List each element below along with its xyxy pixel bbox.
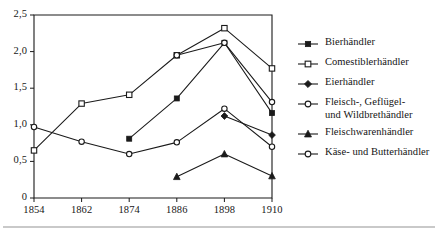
open-circle-marker <box>269 99 274 104</box>
legend-filled-triangle-icon <box>297 127 319 141</box>
chart-legend: BierhändlerComestiblerhändlerEierhändler… <box>297 36 437 166</box>
filled-square-marker <box>305 41 310 46</box>
plot-frame <box>34 15 272 198</box>
legend-item[interactable]: Eierhändler <box>297 76 437 91</box>
filled-square-marker <box>270 111 275 116</box>
filled-square-marker <box>174 96 179 101</box>
y-tick-label: 0 <box>0 191 27 202</box>
legend-marker-glyph <box>297 147 319 161</box>
series-line <box>129 43 272 139</box>
legend-item[interactable]: Käse- und Butterhändler <box>297 146 437 161</box>
legend-item-label: Bierhändler <box>325 36 375 49</box>
filled-triangle-marker <box>269 172 276 178</box>
chart-page: 00,51,01,52,02,5 18541862187418861898191… <box>0 0 438 235</box>
open-circle-marker <box>269 144 274 149</box>
series-group <box>221 113 275 139</box>
series-group <box>173 150 275 179</box>
y-tick-label: 2,0 <box>0 45 27 56</box>
y-tick-label: 0,5 <box>0 154 27 165</box>
series-line <box>34 28 272 150</box>
x-tick-label: 1898 <box>204 204 244 215</box>
series-group <box>31 25 274 153</box>
open-circle-marker <box>222 40 227 45</box>
y-tick-label: 1,0 <box>0 118 27 129</box>
legend-marker-glyph <box>297 57 319 71</box>
legend-item[interactable]: Comestiblerhändler <box>297 56 437 71</box>
open-square-marker <box>127 92 132 97</box>
open-circle-marker <box>305 151 311 157</box>
x-tick-label: 1854 <box>14 204 54 215</box>
open-circle-marker <box>222 106 227 111</box>
page-divider <box>3 226 435 228</box>
legend-item[interactable]: Fleisch-, Geflügel- und Wildbrethändler <box>297 96 437 121</box>
y-tick-label: 1,5 <box>0 81 27 92</box>
filled-square-marker <box>127 136 132 141</box>
filled-triangle-marker <box>221 150 228 156</box>
open-square-marker <box>79 101 84 106</box>
legend-filled-diamond-icon <box>297 77 319 91</box>
legend-marker-glyph <box>297 127 319 141</box>
filled-diamond-marker <box>221 113 228 120</box>
x-tick-label: 1862 <box>62 204 102 215</box>
series-line <box>177 43 272 102</box>
legend-filled-square-icon <box>297 37 319 51</box>
line-chart: 00,51,01,52,02,5 18541862187418861898191… <box>0 0 290 228</box>
legend-open-circle-icon <box>297 147 319 161</box>
open-square-marker <box>305 61 311 67</box>
legend-marker-glyph <box>297 97 319 111</box>
x-tick-label: 1886 <box>157 204 197 215</box>
open-circle-marker <box>305 101 311 107</box>
legend-item-label: Comestiblerhändler <box>325 56 409 69</box>
open-circle-marker <box>31 124 36 129</box>
legend-item[interactable]: Fleischwarenhändler <box>297 126 437 141</box>
legend-item-label: Eierhändler <box>325 76 375 89</box>
legend-item-label: Käse- und Butterhändler <box>325 146 429 159</box>
x-tick-label: 1910 <box>252 204 292 215</box>
filled-triangle-marker <box>173 173 180 179</box>
series-line <box>224 116 272 135</box>
open-square-marker <box>269 66 274 71</box>
open-circle-marker <box>127 151 132 156</box>
legend-marker-glyph <box>297 37 319 51</box>
filled-diamond-marker <box>304 80 311 87</box>
legend-marker-glyph <box>297 77 319 91</box>
legend-open-circle-icon <box>297 97 319 111</box>
plot-canvas <box>0 0 290 228</box>
filled-diamond-marker <box>269 132 276 139</box>
open-square-marker <box>222 25 227 30</box>
legend-item-label: Fleischwarenhändler <box>325 126 413 139</box>
open-circle-marker <box>79 139 84 144</box>
series-group <box>31 106 274 157</box>
x-tick-label: 1874 <box>109 204 149 215</box>
open-circle-marker <box>174 140 179 145</box>
series-line <box>177 154 272 177</box>
open-circle-marker <box>174 53 179 58</box>
legend-item[interactable]: Bierhändler <box>297 36 437 51</box>
y-tick-label: 2,5 <box>0 8 27 19</box>
legend-open-square-icon <box>297 57 319 71</box>
legend-item-label: Fleisch-, Geflügel- und Wildbrethändler <box>325 96 413 121</box>
open-square-marker <box>31 148 36 153</box>
